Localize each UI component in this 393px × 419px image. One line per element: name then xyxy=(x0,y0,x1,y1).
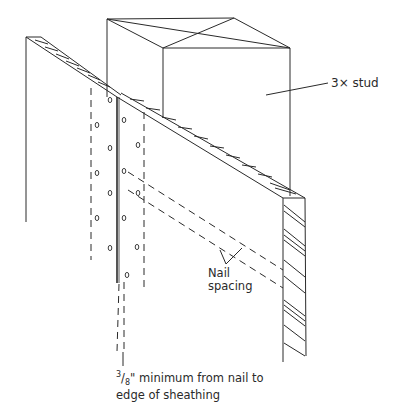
nail-spacing-label: Nail spacing xyxy=(208,267,252,293)
edge-note-line1: 3/8" minimum from nail to xyxy=(116,368,264,389)
stud-block xyxy=(107,18,290,196)
nail-spacing-label-line2: spacing xyxy=(208,280,252,293)
edge-distance-note: 3/8" minimum from nail to edge of sheath… xyxy=(116,368,264,402)
stud-leader-line xyxy=(266,83,328,95)
hidden-stud-lines xyxy=(91,88,283,352)
diagram-drawing xyxy=(0,0,393,419)
right-sheathing-panel xyxy=(117,93,306,362)
sheathing-nailing-diagram: 3× stud Nail spacing 3/8" minimum from n… xyxy=(0,0,393,419)
stud-label: 3× stud xyxy=(331,77,379,90)
edge-note-line1-text: " minimum from nail to xyxy=(130,371,264,385)
edge-note-line2: edge of sheathing xyxy=(116,389,264,402)
